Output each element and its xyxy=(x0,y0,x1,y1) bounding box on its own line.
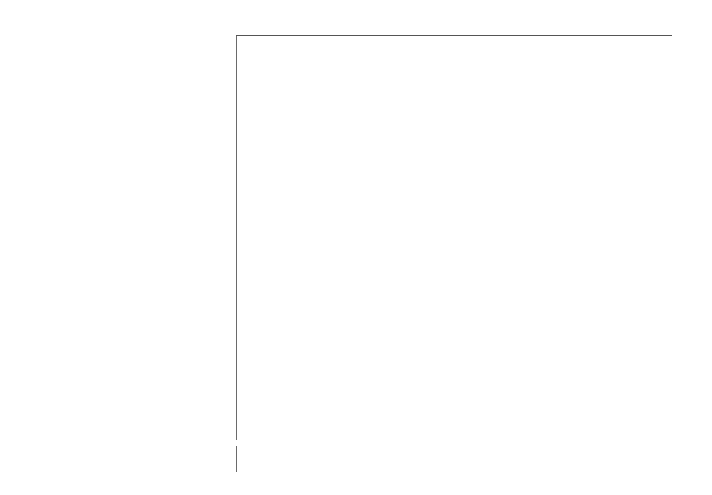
plot-area xyxy=(236,36,672,476)
value-axis-baseline-secondary xyxy=(236,446,237,472)
category-label-column xyxy=(0,36,232,476)
bar-chart xyxy=(0,0,712,495)
value-axis-baseline xyxy=(236,36,237,440)
x-axis xyxy=(236,18,672,36)
